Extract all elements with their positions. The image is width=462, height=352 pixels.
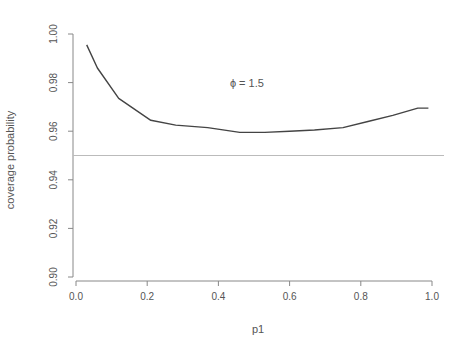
x-tick-label: 0.8 [354,291,368,302]
annotation: ϕ = 1.5 [230,77,264,89]
x-tick-label: 0.6 [283,291,297,302]
x-tick-label: 0.0 [69,291,83,302]
y-axis: 0.900.920.940.960.981.00 [48,24,73,287]
x-axis-label: p1 [252,323,264,335]
y-axis-label: coverage probability [4,110,16,209]
x-tick-label: 1.0 [425,291,439,302]
series-line [87,45,429,132]
y-tick-label: 0.94 [48,170,59,190]
x-axis: 0.00.20.40.60.81.0 [69,281,439,302]
y-tick-label: 0.98 [48,72,59,92]
coverage-curve [87,45,429,132]
y-tick-label: 0.90 [48,267,59,287]
x-tick-label: 0.4 [211,291,225,302]
y-tick-label: 0.96 [48,121,59,141]
x-tick-label: 0.2 [140,291,154,302]
y-tick-label: 1.00 [48,24,59,44]
y-tick-label: 0.92 [48,218,59,238]
chart: 0.900.920.940.960.981.00 0.00.20.40.60.8… [0,0,462,352]
phi-annotation: ϕ = 1.5 [230,77,264,89]
